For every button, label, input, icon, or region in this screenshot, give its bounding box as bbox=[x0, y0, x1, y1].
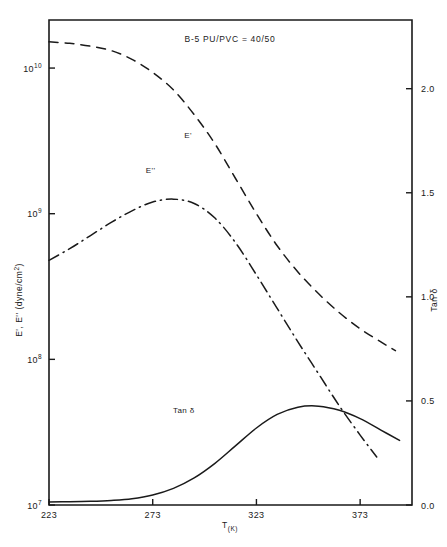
right-axis-title: Tan δ bbox=[429, 288, 439, 311]
x-tick-label: 223 bbox=[41, 510, 57, 520]
right-axis-title-group: Tan δ bbox=[429, 288, 439, 311]
right-tick-label: 0.0 bbox=[421, 501, 435, 511]
right-tick-label: 2.0 bbox=[421, 84, 435, 94]
chart-background bbox=[0, 0, 447, 547]
x-tick-label: 323 bbox=[248, 510, 264, 520]
x-tick-label: 273 bbox=[145, 510, 161, 520]
figure-container: B-5 PU/PVC = 40/50 1071081091010 0.00.51… bbox=[0, 0, 447, 547]
series-inline-label: E'' bbox=[146, 166, 156, 175]
left-axis-title-group: E', E'' (dyne/cm2) bbox=[13, 263, 24, 337]
x-tick-label: 373 bbox=[352, 510, 368, 520]
right-tick-label: 1.5 bbox=[421, 188, 435, 198]
chart-title: B-5 PU/PVC = 40/50 bbox=[185, 34, 276, 44]
series-inline-label: E' bbox=[184, 131, 192, 140]
series-inline-label: Tan δ bbox=[173, 406, 195, 415]
left-axis-title: E', E'' (dyne/cm2) bbox=[13, 263, 24, 337]
right-tick-label: 0.5 bbox=[421, 396, 435, 406]
dynamic-mechanical-analysis-chart: B-5 PU/PVC = 40/50 1071081091010 0.00.51… bbox=[0, 0, 447, 547]
